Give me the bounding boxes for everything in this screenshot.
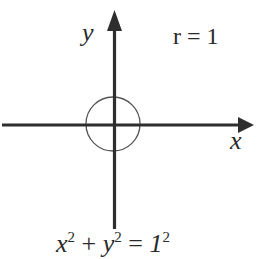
circle-equation: x2 + y2 = 12 bbox=[56, 230, 170, 257]
equation-equals: = bbox=[122, 229, 150, 258]
y-axis-label: y bbox=[82, 20, 94, 46]
y-axis-arrowhead-icon bbox=[107, 10, 122, 31]
coordinate-plane-diagram bbox=[0, 0, 261, 259]
equation-rhs-exponent: 2 bbox=[162, 229, 170, 245]
equation-plus: + bbox=[75, 229, 103, 258]
x-axis-label: x bbox=[230, 128, 242, 154]
radius-label: r = 1 bbox=[173, 24, 219, 48]
equation-rhs-base: 1 bbox=[149, 229, 162, 258]
equation-term2-exponent: 2 bbox=[114, 229, 122, 245]
equation-term1-exponent: 2 bbox=[68, 229, 76, 245]
equation-term2-base: y bbox=[103, 229, 115, 258]
equation-term1-base: x bbox=[56, 229, 68, 258]
